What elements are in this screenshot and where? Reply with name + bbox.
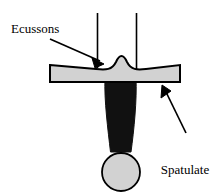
dark-stem-shape — [105, 78, 136, 152]
label-spatulate-line1: Spatulate — [150, 163, 220, 177]
arrow-to-ecussons-icon — [50, 39, 104, 68]
terminal-circle-shape — [102, 153, 140, 191]
arrow-to-spatulate-icon — [161, 85, 186, 133]
label-ecussons: Ecussons — [11, 22, 59, 36]
label-spatulate-ends: Spatulate ends — [150, 135, 220, 196]
diagram-figure: Ecussons Spatulate ends — [0, 0, 221, 196]
spatulate-bar-shape — [50, 56, 180, 82]
